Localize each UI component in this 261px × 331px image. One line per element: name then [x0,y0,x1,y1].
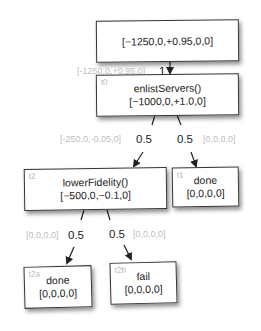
edge-probability-t0-t1: 0.5 [177,133,193,145]
node-t2b: t2b fail [0,0,0,0] [109,261,177,305]
edge-t2-t2b-upper [107,210,110,220]
edge-vector-t2-t2a: [0,0,0,0] [26,230,59,240]
edge-t2-t2a-lower [67,247,74,263]
node-t2-value: [−500,0,−0.1,0] [60,189,131,203]
edge-probability-t2-t2b: 0.5 [109,228,125,240]
node-t2-tag: t2 [29,172,36,181]
edge-t2-t2b-lower [124,245,131,259]
node-t1-value: [0,0,0,0] [187,187,225,201]
node-t2b-tag: t2b [115,265,126,274]
node-t0: t0 enlistServers() [−1000,0,+1.0,0] [96,73,239,116]
node-t2a: t2a done [0,0,0,0] [23,265,92,309]
node-t0-value: [−1000,0,+1.0,0] [129,95,206,109]
edge-t0-t2-upper [152,115,155,125]
edge-t0-t1-lower [191,152,196,166]
node-t2-label: lowerFidelity() [63,176,129,190]
edge-t0-t2-lower [134,152,143,166]
edge-probability-t2-t2a: 0.5 [68,229,84,241]
node-t2a-value: [0,0,0,0] [39,287,77,301]
node-t2b-label: fail [136,270,150,283]
root-node-value: [−1250,0,+0.95,0,0] [122,34,213,48]
node-t2a-label: done [46,274,70,288]
node-t1: t1 done [0,0,0,0] [172,166,240,207]
edge-vector-t2-t2b: [0,0,0,0] [133,229,166,239]
node-t1-tag: t1 [177,170,184,179]
node-t2a-tag: t2a [29,269,40,278]
node-t1-label: done [194,174,218,187]
edge-t2-t2a-upper [81,210,84,220]
node-t0-tag: t0 [101,78,108,87]
edge-vector-t0-t2: [-250,0,-0.05,0] [60,134,121,144]
edge-probability-t0-t2: 0.5 [136,133,152,145]
node-t0-label: enlistServers() [134,82,202,96]
edge-vector-t0-t1: [0,0,0,0] [203,134,236,144]
node-t2: t2 lowerFidelity() [−500,0,−0.1,0] [24,167,168,211]
node-t2b-value: [0,0,0,0] [125,283,163,297]
root-node: [−1250,0,+0.95,0,0] [96,19,239,62]
edge-t0-t1-upper [177,115,181,125]
